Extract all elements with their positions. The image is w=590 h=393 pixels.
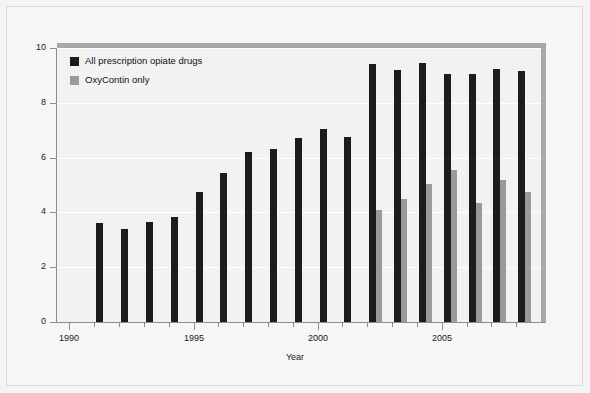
bar [146, 222, 153, 322]
bar [369, 64, 376, 322]
y-axis-tick [50, 267, 56, 268]
bar [394, 70, 401, 322]
bar [493, 69, 500, 322]
plot-frame-right-edge [541, 43, 546, 323]
x-axis-tick-minor [144, 323, 145, 327]
y-axis-tick-label: 0 [16, 317, 46, 326]
bar [469, 74, 476, 322]
y-axis-tick-label: 6 [16, 153, 46, 162]
x-axis-tick-label: 2000 [298, 333, 338, 343]
legend-swatch-gray [70, 76, 79, 85]
bar [401, 199, 407, 322]
bar [220, 173, 227, 322]
bar [295, 138, 302, 322]
x-axis-tick-minor [218, 323, 219, 327]
y-axis-line [56, 48, 57, 323]
bar [121, 229, 128, 322]
bar [196, 192, 203, 322]
bar [344, 137, 351, 322]
bar [518, 71, 525, 322]
x-axis-tick-minor [342, 323, 343, 327]
x-axis-tick-minor [293, 323, 294, 327]
bar [96, 223, 103, 322]
y-axis-tick-label: 10 [16, 43, 46, 52]
x-axis-tick-major [442, 323, 443, 330]
bar [426, 184, 432, 322]
y-axis-tick [50, 48, 56, 49]
x-axis-tick-minor [367, 323, 368, 327]
y-axis-tick-label: 8 [16, 98, 46, 107]
bar [500, 180, 506, 322]
x-axis-tick-major [318, 323, 319, 330]
x-axis-tick-minor [516, 323, 517, 327]
x-axis-tick-label: 1995 [174, 333, 214, 343]
legend-item-oxycontin-only: OxyContin only [70, 72, 202, 88]
legend-swatch-dark [70, 57, 79, 66]
legend-item-all-prescription-opiate-drugs: All prescription opiate drugs [70, 53, 202, 69]
x-axis-tick-minor [268, 323, 269, 327]
x-axis-tick-label: 1990 [49, 333, 89, 343]
chart-page: Percent Year All prescription opiate dru… [0, 0, 590, 393]
x-axis-tick-minor [467, 323, 468, 327]
y-axis-tick [50, 212, 56, 213]
bar [451, 170, 457, 322]
x-axis-title: Year [0, 352, 590, 362]
legend-label-all-prescription-opiate-drugs: All prescription opiate drugs [85, 56, 202, 66]
x-axis-tick-minor [243, 323, 244, 327]
x-axis-tick-minor [491, 323, 492, 327]
bar [525, 192, 531, 322]
x-axis-tick-minor [392, 323, 393, 327]
bar [444, 74, 451, 322]
chart-legend: All prescription opiate drugs OxyContin … [70, 53, 202, 91]
legend-label-oxycontin-only: OxyContin only [85, 75, 149, 85]
bar [419, 63, 426, 322]
x-axis-tick-minor [169, 323, 170, 327]
y-axis-tick [50, 158, 56, 159]
x-axis-tick-label: 2005 [422, 333, 462, 343]
x-axis-tick-major [194, 323, 195, 330]
x-axis-tick-minor [417, 323, 418, 327]
bar [476, 203, 482, 322]
bar [270, 149, 277, 322]
bar [171, 217, 178, 322]
y-axis-tick [50, 322, 56, 323]
gridline [57, 48, 541, 49]
bar [320, 129, 327, 322]
x-axis-tick-major [69, 323, 70, 330]
bar [376, 210, 382, 322]
y-axis-tick-label: 2 [16, 262, 46, 271]
y-axis-tick [50, 103, 56, 104]
bar [245, 152, 252, 322]
x-axis-line [56, 322, 546, 323]
x-axis-tick-minor [119, 323, 120, 327]
y-axis-tick-label: 4 [16, 207, 46, 216]
x-axis-tick-minor [94, 323, 95, 327]
